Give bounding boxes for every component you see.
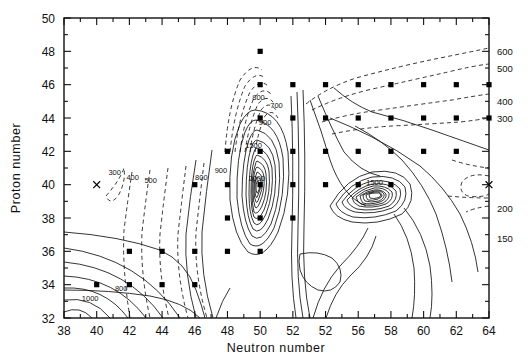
y-tick-label: 34: [42, 278, 56, 292]
contour-figure: 3840424446485052525658606264 32343638404…: [0, 0, 528, 363]
x-tick-label: 64: [482, 324, 496, 338]
x-tick-label: 44: [155, 324, 169, 338]
y-axis-tick-labels: 32343638404244464850: [42, 12, 56, 326]
contour-label: 800: [252, 93, 265, 102]
edge-contour-label: 200: [497, 203, 513, 214]
x-mark-icon: [93, 181, 100, 188]
x-tick-label: 48: [221, 324, 235, 338]
data-point-marker: [127, 282, 132, 287]
edge-contour-label: 600: [497, 46, 513, 57]
x-tick-label: 62: [450, 324, 464, 338]
y-tick-label: 42: [42, 145, 56, 159]
data-point-marker: [258, 215, 263, 220]
contour-group-right-edge-loop: [461, 175, 489, 212]
data-point-marker: [486, 115, 491, 120]
contour-label: 1000: [82, 294, 99, 303]
edge-contour-label: 500: [497, 63, 513, 74]
data-point-marker: [421, 149, 426, 154]
data-point-marker: [290, 149, 295, 154]
y-tick-label: 40: [42, 178, 56, 192]
axis-ticks: [64, 18, 489, 318]
data-point-marker: [225, 149, 230, 154]
data-point-marker: [258, 82, 263, 87]
x-tick-label: 60: [417, 324, 431, 338]
data-point-marker: [192, 249, 197, 254]
data-point-marker: [356, 115, 361, 120]
inline-contour-labels: 3004005008009008007009001500200015001000…: [82, 93, 383, 304]
contour-lines: [64, 48, 489, 318]
x-tick-label: 40: [90, 324, 104, 338]
data-point-marker: [192, 282, 197, 287]
data-point-marker: [323, 182, 328, 187]
data-point-marker: [356, 149, 361, 154]
x-axis-tick-labels: 3840424446485052525658606264: [57, 324, 496, 338]
y-tick-label: 38: [42, 212, 56, 226]
data-point-marker: [225, 215, 230, 220]
x-tick-label: 50: [253, 324, 267, 338]
contour-group-upper-right-dashed: [306, 48, 489, 198]
data-point-marker: [388, 182, 393, 187]
data-point-marker: [454, 149, 459, 154]
contour-label: 700: [270, 101, 283, 110]
data-point-marker: [356, 82, 361, 87]
data-point-marker: [356, 182, 361, 187]
y-tick-label: 50: [42, 12, 56, 26]
data-point-marker: [192, 182, 197, 187]
data-point-marker: [159, 282, 164, 287]
contour-label: 900: [215, 166, 228, 175]
data-point-marker: [225, 249, 230, 254]
data-point-marker: [486, 82, 491, 87]
contour-group-upper-right: [310, 88, 489, 282]
contour-group-lower-right: [299, 208, 432, 318]
data-point-marker: [421, 115, 426, 120]
data-point-marker: [290, 215, 295, 220]
x-tick-label: 58: [384, 324, 398, 338]
data-point-marker: [290, 115, 295, 120]
contour-label: 2000: [249, 174, 266, 183]
data-point-marker: [127, 249, 132, 254]
data-point-marker: [323, 115, 328, 120]
plot-frame: [64, 18, 489, 318]
data-point-marker: [323, 149, 328, 154]
edge-contour-label: 400: [497, 96, 513, 107]
x-tick-label: 42: [123, 324, 137, 338]
data-point-marker: [225, 182, 230, 187]
data-point-marker: [388, 82, 393, 87]
data-point-marker: [323, 82, 328, 87]
data-point-marker: [290, 182, 295, 187]
contour-label: 500: [144, 176, 157, 185]
contour-label: 1500: [366, 178, 383, 187]
edge-contour-labels: 600500400300200150: [497, 46, 513, 244]
contour-plot-svg: 3840424446485052525658606264 32343638404…: [0, 0, 528, 363]
y-tick-label: 46: [42, 78, 56, 92]
data-point-marker: [258, 49, 263, 54]
contour-label: 300: [108, 168, 121, 177]
data-point-marker: [454, 115, 459, 120]
data-point-marker: [421, 82, 426, 87]
edge-contour-label: 150: [497, 233, 513, 244]
data-point-marker: [454, 82, 459, 87]
data-point-marker: [388, 115, 393, 120]
contour-label: 400: [126, 173, 139, 182]
contour-label: 900: [259, 118, 272, 127]
x-tick-label: 52: [319, 324, 333, 338]
x-tick-label: 46: [188, 324, 202, 338]
y-tick-label: 36: [42, 245, 56, 259]
y-tick-label: 44: [42, 112, 56, 126]
y-tick-label: 48: [42, 45, 56, 59]
data-point-marker: [290, 82, 295, 87]
contour-label: 800: [195, 173, 208, 182]
data-point-marker: [94, 282, 99, 287]
y-axis-title: Proton number: [9, 123, 23, 213]
x-axis-title: Neutron number: [227, 341, 326, 355]
x-tick-label: 56: [352, 324, 366, 338]
contour-group-vertical-bundle: [291, 90, 310, 318]
x-tick-label: 38: [57, 324, 71, 338]
y-tick-label: 32: [42, 312, 56, 326]
contour-label: 1500: [245, 141, 262, 150]
data-point-marker: [258, 249, 263, 254]
edge-contour-label: 300: [497, 113, 513, 124]
x-tick-label: 52: [286, 324, 300, 338]
contour-label: 800: [115, 284, 128, 293]
data-point-marker: [159, 249, 164, 254]
